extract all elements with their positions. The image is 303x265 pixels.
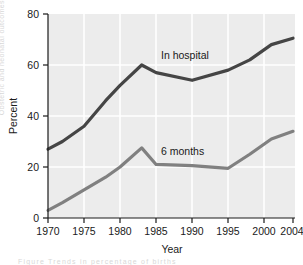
- y-axis-title: Percent: [7, 98, 19, 134]
- x-axis-title: Year: [161, 243, 183, 255]
- x-tick-label-1990: 1990: [180, 225, 204, 237]
- y-tick-label-40: 40: [27, 110, 39, 122]
- annotation-in-hospital: In hospital: [161, 49, 209, 61]
- annotation-6-months: 6 months: [161, 145, 204, 157]
- x-tick-label-1995: 1995: [216, 225, 240, 237]
- x-tick-label-1970: 1970: [36, 225, 60, 237]
- x-tick-label-1985: 1985: [144, 225, 168, 237]
- x-tick-label-2004: 2004: [280, 225, 303, 237]
- x-axis-ticks: [48, 218, 293, 223]
- y-tick-label-20: 20: [27, 161, 39, 173]
- y-tick-label-0: 0: [33, 212, 39, 224]
- y-tick-label-80: 80: [27, 8, 39, 20]
- x-tick-label-1980: 1980: [108, 225, 132, 237]
- x-tick-label-2000: 2000: [252, 225, 276, 237]
- y-tick-label-60: 60: [27, 59, 39, 71]
- x-tick-label-1975: 1975: [72, 225, 96, 237]
- y-axis-ticks: [43, 14, 48, 218]
